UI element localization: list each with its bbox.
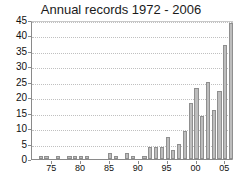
- bar: [183, 131, 187, 159]
- x-axis-tick-label: 85: [99, 164, 119, 173]
- y-axis-tick-label: 40: [0, 31, 27, 41]
- chart-container: Annual records 1972 - 2006 0510152025303…: [0, 0, 242, 184]
- y-axis-tick-mark: [28, 160, 31, 161]
- bar: [73, 156, 77, 159]
- bar: [200, 116, 204, 159]
- y-axis-tick-label: 35: [0, 47, 27, 57]
- bar: [142, 156, 146, 159]
- y-axis-tick-label: 30: [0, 62, 27, 72]
- bar: [194, 88, 198, 159]
- bar: [189, 103, 193, 159]
- bar: [79, 156, 83, 159]
- bar: [206, 82, 210, 159]
- bar: [131, 156, 135, 159]
- x-axis-tick-label: 95: [157, 164, 177, 173]
- x-axis-tick-label: 90: [128, 164, 148, 173]
- x-axis-tick-label: 00: [186, 164, 206, 173]
- bar: [229, 23, 233, 159]
- bar: [223, 45, 227, 159]
- bar: [44, 156, 48, 159]
- bar: [166, 137, 170, 159]
- y-axis-tick-label: 25: [0, 78, 27, 88]
- bar: [212, 110, 216, 159]
- y-axis-tick-label: 20: [0, 93, 27, 103]
- bar: [160, 147, 164, 159]
- bar: [39, 156, 43, 159]
- bar: [171, 150, 175, 159]
- x-axis-tick-label: 75: [41, 164, 61, 173]
- bar: [154, 147, 158, 159]
- y-axis-tick-label: 45: [0, 16, 27, 26]
- bar: [148, 147, 152, 159]
- y-axis-tick-label: 0: [0, 155, 27, 165]
- x-axis-tick-label: 80: [70, 164, 90, 173]
- bar: [67, 156, 71, 159]
- bar-series: [32, 22, 232, 159]
- plot-area: [31, 21, 233, 160]
- bar: [217, 91, 221, 159]
- y-axis-tick-label: 10: [0, 124, 27, 134]
- bar: [177, 144, 181, 159]
- bar: [125, 153, 129, 159]
- y-axis-tick-label: 5: [0, 140, 27, 150]
- bar: [108, 153, 112, 159]
- bar: [85, 156, 89, 159]
- x-axis-tick-label: 05: [214, 164, 234, 173]
- bar: [56, 156, 60, 159]
- y-axis-tick-label: 15: [0, 109, 27, 119]
- bar: [114, 156, 118, 159]
